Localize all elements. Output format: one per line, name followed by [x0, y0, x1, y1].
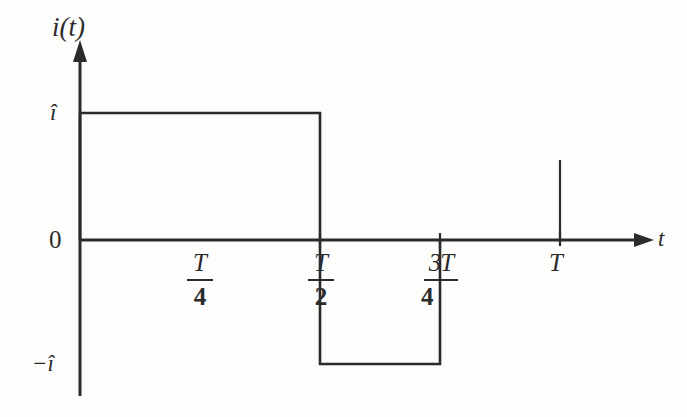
x-axis-label: t	[658, 227, 664, 250]
waveform-figure: i(t) t î 0 −î T 4 T 2 3T 4 T	[0, 0, 687, 417]
fraction-numerator: T	[178, 250, 222, 277]
fraction-numerator: T	[299, 250, 343, 277]
fraction-bar	[424, 279, 458, 281]
fraction-denominator: 4	[415, 283, 467, 309]
x-tick-label-three-quarter-period: 3T 4	[415, 250, 467, 309]
y-axis-arrowhead-icon	[73, 40, 87, 62]
fraction-denominator: 2	[299, 283, 343, 309]
waveform-plot-svg	[0, 0, 687, 417]
x-axis-arrowhead-icon	[634, 233, 654, 247]
x-axis	[80, 233, 654, 247]
x-tick-label-half-period: T 2	[299, 250, 343, 309]
x-tick-label-period: T	[549, 250, 563, 275]
fraction-denominator: 4	[178, 283, 222, 309]
y-tick-label-zero: 0	[49, 227, 62, 252]
y-axis-label: i(t)	[52, 14, 85, 41]
fraction-numerator: 3T	[415, 250, 467, 277]
y-tick-label-negative-peak: −î	[32, 352, 54, 375]
fraction-bar	[187, 279, 213, 281]
x-tick-label-quarter-period: T 4	[178, 250, 222, 309]
y-tick-label-positive-peak: î	[50, 101, 56, 124]
fraction-bar	[308, 279, 334, 281]
